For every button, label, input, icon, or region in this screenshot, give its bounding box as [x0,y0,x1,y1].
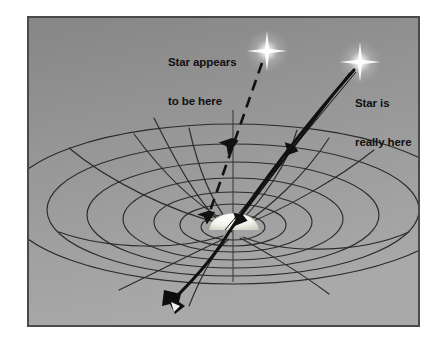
figure-root: Star appears to be here Star is really h… [0,0,443,346]
apparent-star [245,29,289,73]
diagram-frame: Star appears to be here Star is really h… [27,16,420,327]
label-star-appears: Star appears to be here [168,30,236,134]
label-star-really-line2: really here [355,136,411,149]
label-star-really: Star is really here [355,71,411,175]
label-star-really-line1: Star is [355,97,411,110]
label-star-appears-line1: Star appears [168,56,236,69]
label-star-appears-line2: to be here [168,95,236,108]
